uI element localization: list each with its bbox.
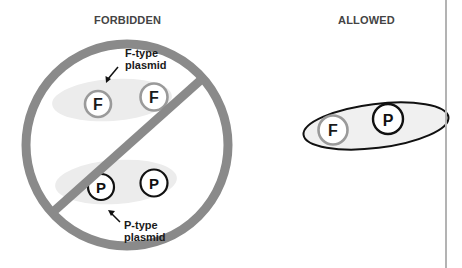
- plasmid-letter: P: [96, 179, 106, 196]
- p-type-arrow: [108, 210, 120, 222]
- plasmid-letter: P: [149, 175, 159, 192]
- plasmid-letter: F: [149, 89, 159, 106]
- p-type-label-line2: plasmid: [124, 231, 166, 243]
- p-type-label-line1: P-type: [124, 219, 166, 231]
- f-plasmid-2: F: [141, 84, 168, 111]
- plasmid-letter: F: [93, 96, 103, 113]
- plasmid-letter: P: [383, 112, 394, 129]
- right-border-divider: [445, 0, 447, 268]
- f-type-label-line1: F-type: [125, 47, 167, 59]
- plasmid-letter: F: [328, 122, 338, 139]
- diagram-canvas: F F P P: [0, 0, 462, 268]
- p-type-label: P-type plasmid: [124, 219, 166, 243]
- allowed-f-plasmid: F: [319, 116, 348, 145]
- allowed-p-plasmid: P: [373, 104, 403, 134]
- p-plasmid-2: P: [141, 170, 168, 197]
- f-type-label-line2: plasmid: [125, 59, 167, 71]
- plasmid-incompatibility-diagram: FORBIDDEN ALLOWED F F P P: [0, 0, 462, 268]
- f-plasmid-1: F: [85, 91, 111, 117]
- prohibition-icon: [26, 44, 228, 246]
- f-type-label: F-type plasmid: [125, 47, 167, 71]
